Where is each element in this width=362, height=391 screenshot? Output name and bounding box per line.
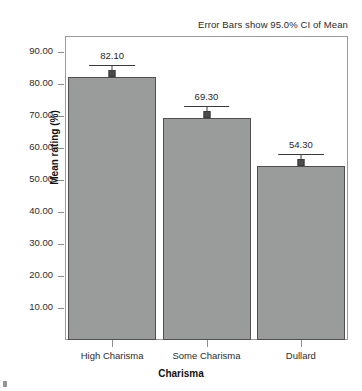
x-tick-mark [207, 340, 208, 347]
x-axis-title: Charisma [0, 368, 362, 379]
y-tick-mark [58, 180, 64, 181]
y-tick-label: 40.00 [29, 205, 53, 216]
x-tick-label: Some Charisma [172, 350, 240, 361]
y-tick-mark [58, 276, 64, 277]
y-tick-label: 30.00 [29, 237, 53, 248]
scan-artifact [3, 381, 7, 387]
y-tick-mark [58, 116, 64, 117]
y-tick-label: 10.00 [29, 301, 53, 312]
bar [257, 166, 345, 340]
bar-value-label: 82.10 [100, 50, 124, 61]
y-tick-mark [58, 52, 64, 53]
y-tick-mark [58, 308, 64, 309]
x-tick-mark [112, 340, 113, 347]
y-tick-label: 50.00 [29, 173, 53, 184]
bar-value-label: 69.30 [195, 91, 219, 102]
x-tick-label: Dullard [286, 350, 316, 361]
y-tick-label: 90.00 [29, 45, 53, 56]
y-tick-mark [58, 84, 64, 85]
y-tick-label: 80.00 [29, 77, 53, 88]
bar-value-label: 54.30 [289, 139, 313, 150]
bar [68, 77, 156, 340]
x-tick-mark [301, 340, 302, 347]
x-tick-label: High Charisma [81, 350, 144, 361]
y-tick-mark [58, 148, 64, 149]
y-tick-label: 20.00 [29, 269, 53, 280]
error-bar-annotation: Error Bars show 95.0% CI of Mean [198, 19, 348, 30]
y-tick-label: 70.00 [29, 109, 53, 120]
error-bar-cap [89, 65, 135, 66]
y-tick-mark [58, 244, 64, 245]
y-tick-mark [58, 212, 64, 213]
error-bar-cap [278, 154, 324, 155]
bar-chart: Error Bars show 95.0% CI of Mean Mean ra… [0, 0, 362, 391]
error-bar-cap [184, 106, 230, 107]
mean-marker [297, 159, 304, 166]
y-tick-label: 60.00 [29, 141, 53, 152]
mean-marker [203, 111, 210, 118]
bar [163, 118, 251, 340]
mean-marker [109, 70, 116, 77]
